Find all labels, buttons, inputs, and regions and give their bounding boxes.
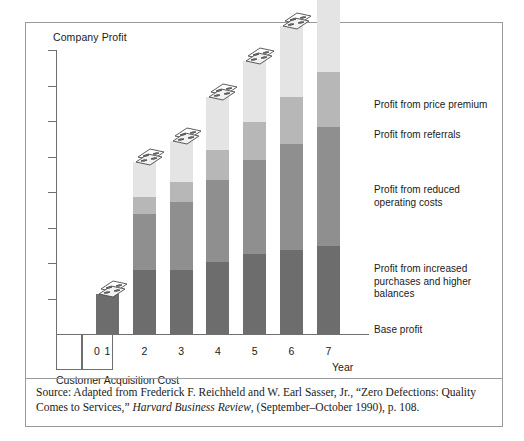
y-axis-line (56, 50, 57, 335)
bar-year-3[interactable] (170, 141, 193, 334)
bar-segment (280, 26, 303, 97)
y-axis-title: Company Profit (53, 31, 127, 43)
bar-segment (280, 250, 303, 334)
bar-segment (170, 202, 193, 270)
bar-year-7[interactable] (317, 0, 340, 334)
bar-segment (206, 180, 229, 262)
figure-panel: Company Profit Profit from price premium… (25, 22, 503, 427)
bar-year-6[interactable] (280, 26, 303, 334)
bar-segment (170, 141, 193, 182)
bar-segment (133, 214, 156, 270)
bar-segment (243, 122, 266, 160)
x-axis-label-6: 6 (279, 345, 305, 357)
x-axis-label-2: 2 (131, 345, 157, 357)
bar-segment (317, 0, 340, 72)
bar-segment (133, 270, 156, 334)
bar-segment (206, 97, 229, 150)
x-axis-label-1: 1 (95, 345, 121, 357)
source-note: Source: Adapted from Frederick F. Reichh… (36, 385, 494, 415)
y-axis-tick (48, 299, 56, 300)
y-axis-tick (48, 228, 56, 229)
legend-label-2: Profit from reduced operating costs (374, 184, 460, 209)
x-axis-label-4: 4 (205, 345, 231, 357)
legend-label-0: Profit from price premium (374, 99, 488, 112)
bar-segment (243, 160, 266, 254)
x-axis-label-5: 5 (242, 345, 268, 357)
source-divider (26, 378, 502, 379)
y-axis-tick (48, 157, 56, 158)
x-axis-label-7: 7 (315, 345, 341, 357)
bar-segment (133, 197, 156, 214)
bar-segment (243, 61, 266, 122)
bar-year-5[interactable] (243, 61, 266, 334)
bar-segment (133, 162, 156, 197)
bar-segment (96, 294, 119, 334)
y-axis-tick (48, 263, 56, 264)
y-axis-tick (48, 121, 56, 122)
bar-segment (280, 97, 303, 144)
legend-label-3: Profit from increased purchases and high… (374, 263, 502, 301)
cac-box-empty (56, 334, 82, 370)
bar-segment (170, 182, 193, 202)
bar-segment (317, 246, 340, 334)
bar-segment (317, 127, 340, 246)
legend-label-1: Profit from referrals (374, 129, 461, 142)
bar-segment (317, 72, 340, 127)
x-axis-labels: Year Customer Acquisition Cost 01234567 (26, 334, 502, 378)
y-axis-tick (48, 86, 56, 87)
source-publication: Harvard Business Review (132, 401, 250, 413)
chart-area: Company Profit Profit from price premium… (26, 23, 502, 378)
bar-segment (280, 144, 303, 250)
source-suffix: , (September–October 1990), p. 108. (251, 401, 420, 413)
bar-segment (206, 262, 229, 334)
bar-year-2[interactable] (133, 162, 156, 334)
x-axis-title: Year (332, 361, 353, 373)
y-axis-tick (48, 192, 56, 193)
x-axis-label-3: 3 (168, 345, 194, 357)
bar-segment (170, 270, 193, 334)
bar-year-4[interactable] (206, 97, 229, 334)
y-axis-tick (48, 50, 56, 51)
bar-segment (243, 254, 266, 334)
bar-year-1[interactable] (96, 294, 119, 334)
bar-segment (206, 150, 229, 180)
